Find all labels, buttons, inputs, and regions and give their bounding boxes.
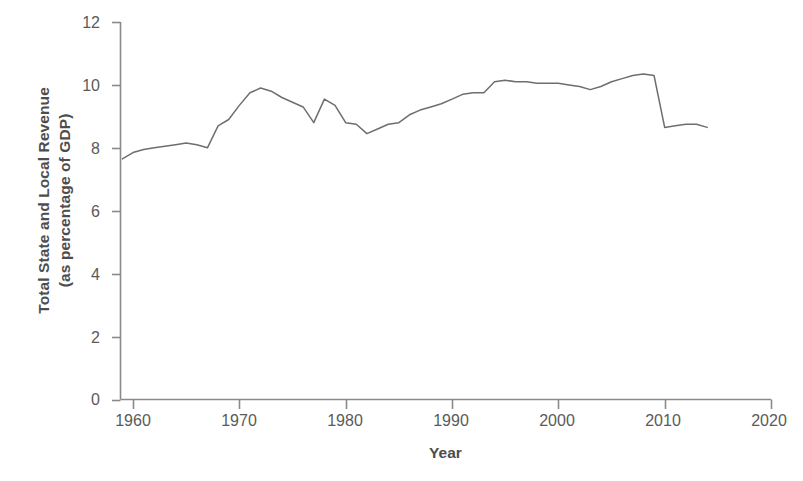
- x-tick-label-1970: 1970: [209, 412, 269, 430]
- x-tick-label-2000: 2000: [527, 412, 587, 430]
- y-tick-label-0: 0: [60, 391, 100, 409]
- y-tick-label-12: 12: [60, 14, 100, 32]
- x-axis-ticks: [134, 400, 772, 410]
- plot-area: [0, 0, 803, 481]
- data-line-series-1: [122, 74, 707, 159]
- x-tick-label-1960: 1960: [103, 412, 163, 430]
- x-tick-label-1990: 1990: [421, 412, 481, 430]
- x-tick-label-2020: 2020: [739, 412, 799, 430]
- y-tick-label-2: 2: [60, 329, 100, 347]
- y-tick-label-4: 4: [60, 266, 100, 284]
- y-tick-label-10: 10: [60, 77, 100, 95]
- x-axis-label: Year: [120, 444, 771, 462]
- x-tick-label-1980: 1980: [315, 412, 375, 430]
- y-tick-label-8: 8: [60, 140, 100, 158]
- chart-figure: Total State and Local Revenue (as percen…: [0, 0, 803, 481]
- y-tick-label-6: 6: [60, 203, 100, 221]
- x-tick-label-2010: 2010: [633, 412, 693, 430]
- y-axis-label-line-1: Total State and Local Revenue: [33, 87, 54, 314]
- y-axis-ticks: [112, 23, 121, 401]
